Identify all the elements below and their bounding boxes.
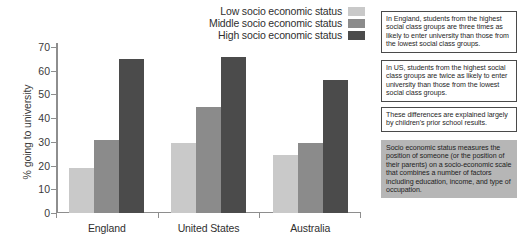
legend-label-low: Low socio economic status	[220, 6, 342, 17]
legend-label-middle: Middle socio economic status	[209, 18, 342, 29]
y-tick-label-30: 30	[10, 137, 50, 147]
bar-group-australia: Australia	[259, 47, 361, 213]
note-us: In US, students from the highest social …	[381, 60, 517, 102]
y-tick-label-10: 10	[10, 184, 50, 194]
bar-group-united-states: United States	[158, 47, 260, 213]
bar-england-high	[119, 59, 144, 213]
y-tick-label-70: 70	[10, 42, 50, 52]
x-tick-1	[158, 213, 159, 218]
x-tick-2	[259, 213, 260, 218]
bar-united-states-middle	[196, 107, 221, 213]
chart-legend: Low socio economic status Middle socio e…	[170, 6, 365, 42]
bar-group-england: England	[56, 47, 158, 213]
bar-chart: Low socio economic status Middle socio e…	[0, 0, 378, 243]
x-label-england: England	[56, 222, 158, 234]
bar-groups: England United States Australia	[56, 47, 361, 213]
legend-label-high: High socio economic status	[218, 30, 342, 41]
note-differences: These differences are explained largely …	[381, 107, 517, 132]
x-label-australia: Australia	[259, 222, 361, 234]
y-tick-label-0: 0	[10, 208, 50, 218]
bar-australia-middle	[298, 143, 323, 213]
x-tick-0	[56, 213, 57, 218]
bar-united-states-low	[171, 143, 196, 213]
bar-australia-low	[273, 155, 298, 213]
legend-item-high: High socio economic status	[170, 30, 365, 41]
legend-swatch-high	[348, 31, 365, 40]
legend-item-low: Low socio economic status	[170, 6, 365, 17]
chart-screenshot: Low socio economic status Middle socio e…	[0, 0, 522, 243]
bar-australia-high	[323, 80, 348, 213]
bar-united-states-high	[221, 57, 246, 214]
x-tick-3	[360, 213, 361, 218]
bar-england-low	[69, 168, 94, 213]
annotation-notes: In England, students from the highest so…	[378, 0, 522, 243]
plot-area: 70 60 50 40 30 20 10 0	[56, 47, 361, 213]
legend-item-middle: Middle socio economic status	[170, 18, 365, 29]
note-definition: Socio economic status measures the posit…	[381, 140, 517, 198]
legend-swatch-low	[348, 7, 365, 16]
bar-england-middle	[94, 140, 119, 214]
legend-swatch-middle	[348, 19, 365, 28]
y-tick-label-20: 20	[10, 161, 50, 171]
x-label-united-states: United States	[158, 222, 260, 234]
y-tick-label-60: 60	[10, 66, 50, 76]
note-england: In England, students from the highest so…	[381, 11, 517, 53]
y-tick-label-50: 50	[10, 89, 50, 99]
y-tick-label-40: 40	[10, 113, 50, 123]
